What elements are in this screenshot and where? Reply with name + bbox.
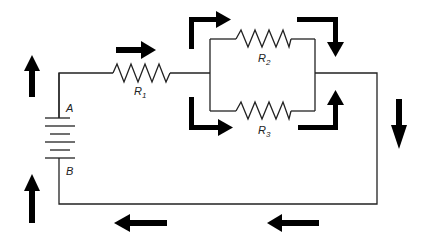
arrow-bend-right-down-icon	[297, 17, 344, 57]
arrow-bend-right-up-icon	[298, 90, 344, 130]
terminal-b-label: B	[66, 165, 73, 177]
terminal-a-label: A	[65, 102, 73, 114]
r2-label: R2	[258, 52, 271, 67]
r1-label: R1	[134, 85, 146, 100]
arrow-left-icon	[114, 214, 167, 232]
current-arrows	[24, 11, 407, 232]
resistor-r3: R3	[236, 102, 291, 139]
arrow-bend-down-right-icon	[189, 97, 233, 136]
arrow-up-icon	[24, 55, 40, 97]
arrow-down-icon	[391, 99, 407, 149]
arrow-right-icon	[116, 41, 156, 59]
circuit-diagram: A B R1 R2 R3	[0, 0, 428, 247]
arrow-left-icon	[267, 214, 319, 232]
battery: A B	[45, 73, 75, 177]
resistor-r1: R1	[113, 64, 170, 100]
resistor-r2: R2	[236, 30, 291, 67]
r3-label: R3	[258, 124, 271, 139]
arrow-up-icon	[24, 174, 40, 223]
